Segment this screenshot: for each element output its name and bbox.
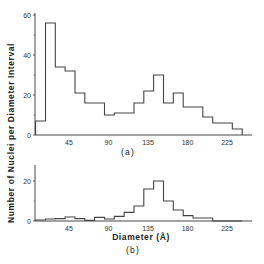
histogram-figure: Number of Nuclei per Diameter Interval 0… (0, 0, 264, 264)
panel-a-y-ticks: 0204060 (23, 12, 35, 139)
x-tick-label: 135 (142, 139, 154, 146)
x-tick-label: 225 (221, 225, 233, 232)
panel-a-label: (a) (121, 147, 135, 157)
panel-b-x-ticks: 4590135180225 (65, 225, 233, 232)
y-axis-title: Number of Nuclei per Diameter Interval (6, 43, 16, 223)
y-tick-label: 20 (23, 92, 31, 99)
x-axis-title: Diameter (Å) (112, 232, 170, 242)
x-tick-label: 45 (65, 225, 73, 232)
panel-a-histogram (36, 23, 243, 135)
x-tick-label: 225 (221, 139, 233, 146)
panel-b-histogram (36, 181, 243, 221)
y-tick-label: 40 (23, 52, 31, 59)
x-tick-label: 45 (65, 139, 73, 146)
y-tick-label: 60 (23, 12, 31, 19)
y-tick-label: 0 (27, 132, 31, 139)
x-tick-label: 90 (105, 225, 113, 232)
panel-b-label: (b) (126, 245, 140, 255)
x-tick-label: 180 (182, 139, 194, 146)
panel-a-chart: 0204060 4590135180225 (a) (23, 12, 252, 158)
panel-a-x-ticks: 4590135180225 (65, 139, 233, 146)
x-tick-label: 135 (142, 225, 154, 232)
y-tick-label: 0 (27, 218, 31, 225)
x-tick-label: 90 (105, 139, 113, 146)
y-tick-label: 20 (23, 178, 31, 185)
panel-b-chart: 020 4590135180225 Diameter (Å) (b) (23, 165, 252, 255)
x-tick-label: 180 (182, 225, 194, 232)
panel-b-y-ticks: 020 (23, 178, 35, 225)
